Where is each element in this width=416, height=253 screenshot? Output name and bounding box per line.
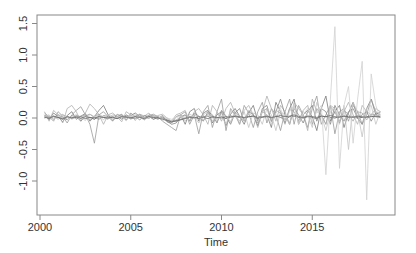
y-tick-label: 0.0: [17, 110, 29, 125]
x-axis-title: Time: [204, 236, 228, 248]
y-tick-label: 1.0: [17, 47, 29, 62]
x-tick-label: 2005: [119, 221, 143, 233]
y-tick-label: -0.5: [17, 140, 29, 159]
x-tick-label: 2000: [28, 221, 52, 233]
y-tick-label: -1.0: [17, 172, 29, 191]
series-line-8: [45, 27, 381, 200]
y-tick-label: 0.5: [17, 79, 29, 94]
x-tick-label: 2010: [209, 221, 233, 233]
series-lines: [45, 27, 381, 200]
y-tick-label: 1.5: [17, 16, 29, 31]
x-tick-label: 2015: [300, 221, 324, 233]
x-axis: 2000200520102015: [28, 215, 325, 233]
time-series-chart: -1.0-0.50.00.51.01.5 2000200520102015 Ti…: [0, 0, 416, 253]
y-axis: -1.0-0.50.00.51.01.5: [17, 16, 37, 191]
